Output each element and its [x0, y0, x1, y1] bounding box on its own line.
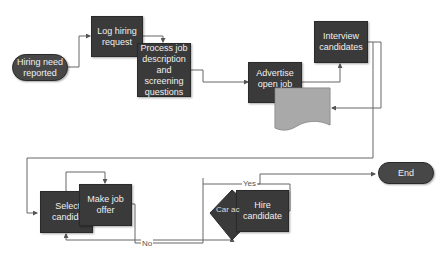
end-label: End — [398, 168, 414, 179]
interview-candidates-box[interactable]: Interview candidates — [314, 21, 368, 63]
process-label: Process job description and screening qu… — [138, 43, 190, 98]
hire-label: Hire candidate — [237, 200, 288, 222]
advertise-open-job-box[interactable]: Advertise open job — [248, 62, 302, 103]
decision-label: Car ac — [215, 205, 241, 214]
yes-edge-label: Yes — [242, 179, 257, 188]
advertise-label: Advertise open job — [249, 68, 301, 90]
process-job-description-box[interactable]: Process job description and screening qu… — [137, 43, 191, 97]
interview-label: Interview candidates — [315, 31, 367, 53]
hire-candidate-box[interactable]: Hire candidate — [236, 190, 289, 232]
end-terminator[interactable]: End — [378, 162, 434, 184]
no-edge-label: No — [141, 239, 153, 248]
offer-label: Make job offer — [80, 194, 131, 216]
log-label: Log hiring request — [92, 26, 142, 48]
log-hiring-request-box[interactable]: Log hiring request — [91, 16, 143, 57]
start-terminator[interactable]: Hiring need reported — [12, 54, 68, 81]
make-job-offer-box[interactable]: Make job offer — [79, 184, 132, 226]
start-label: Hiring need reported — [13, 57, 67, 79]
